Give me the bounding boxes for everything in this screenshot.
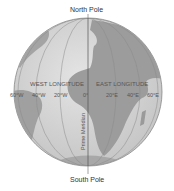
longitude-label: 20°E	[106, 92, 118, 98]
longitude-label: 20°W	[54, 92, 68, 98]
globe: WEST LONGITUDE EAST LONGITUDE 60°W 40°W …	[0, 0, 174, 191]
longitude-label: 0°	[83, 92, 88, 98]
longitude-label: 60°E	[147, 92, 159, 98]
prime-meridian-label: Prime Meridian	[80, 113, 86, 150]
longitude-labels: 60°W 40°W 20°W 0° 20°E 40°E 60°E	[10, 92, 159, 98]
east-longitude-label: EAST LONGITUDE	[96, 81, 148, 87]
longitude-label: 40°W	[32, 92, 46, 98]
west-longitude-label: WEST LONGITUDE	[30, 81, 84, 87]
longitude-label: 40°E	[127, 92, 139, 98]
longitude-label: 60°W	[10, 92, 24, 98]
south-pole-label: South Pole	[70, 176, 104, 183]
